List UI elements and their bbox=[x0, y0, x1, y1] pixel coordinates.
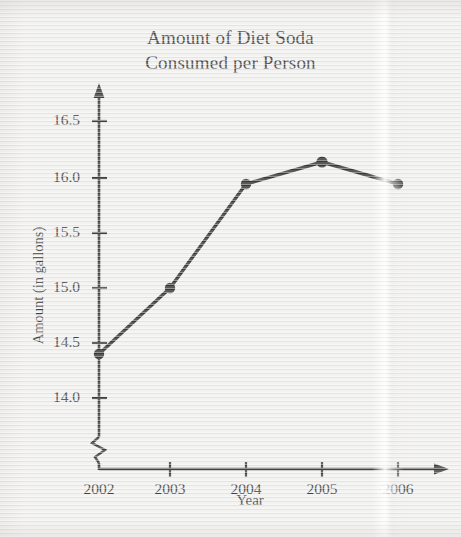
data-point-2002 bbox=[94, 349, 104, 359]
y-tick-label-16-5: 16.5 bbox=[24, 112, 80, 128]
data-point-2006 bbox=[393, 179, 403, 189]
x-tick-label-2002: 2002 bbox=[67, 481, 131, 497]
y-tick-label-16-0: 16.0 bbox=[24, 169, 80, 185]
data-series-line bbox=[99, 162, 398, 354]
y-axis-title: Amount (in gallons) bbox=[30, 186, 47, 386]
x-axis-title: Year bbox=[160, 492, 340, 509]
chart-plot-area bbox=[0, 0, 461, 537]
x-axis-arrowhead bbox=[434, 464, 449, 475]
data-point-markers bbox=[94, 156, 403, 359]
data-point-2005 bbox=[316, 156, 327, 167]
y-axis-arrowhead bbox=[94, 83, 105, 98]
line-chart-figure: Amount of Diet Soda Consumed per Person bbox=[0, 0, 461, 537]
y-tick-label-14-0: 14.0 bbox=[24, 389, 80, 405]
data-point-2003 bbox=[165, 283, 175, 293]
y-axis-break-icon bbox=[92, 437, 105, 463]
x-tick-label-2006: 2006 bbox=[366, 481, 430, 497]
data-point-2004 bbox=[241, 179, 251, 189]
